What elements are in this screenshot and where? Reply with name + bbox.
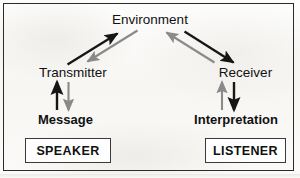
communication-model-diagram: Environment Transmitter Receiver Message… — [0, 0, 300, 178]
node-label-environment: Environment — [0, 13, 300, 27]
role-box-speaker-label: SPEAKER — [36, 144, 99, 158]
node-label-message: Message — [8, 113, 123, 126]
role-box-listener: LISTENER — [205, 138, 286, 163]
node-label-interpretation: Interpretation — [178, 113, 294, 126]
node-label-receiver: Receiver — [188, 66, 300, 80]
page-bottom-edge — [0, 174, 300, 178]
role-box-listener-label: LISTENER — [213, 144, 278, 158]
role-box-speaker: SPEAKER — [25, 138, 111, 163]
node-label-transmitter: Transmitter — [8, 66, 138, 80]
